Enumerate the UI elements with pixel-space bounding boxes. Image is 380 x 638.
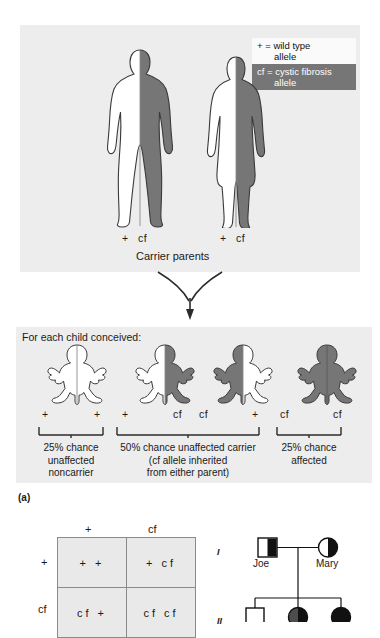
legend-wild-text: = wild type xyxy=(265,40,310,51)
pedigree-symbol-child-3 xyxy=(332,608,351,623)
child-2-allele-right: cf xyxy=(173,408,182,420)
father-allele-left: + xyxy=(122,232,129,244)
outcome-2-line3: from either parent) xyxy=(108,467,268,480)
inheritance-arrow-icon xyxy=(150,268,230,327)
legend-cf-text: = cystic fibrosis xyxy=(267,66,332,77)
punnett-row-header-1: + xyxy=(41,556,47,568)
punnett-col-header-2: cf xyxy=(148,523,157,535)
outcome-1-line3: noncarrier xyxy=(21,467,121,480)
bracket-noncarrier xyxy=(38,424,104,442)
punnett-cell-0-1: + cf xyxy=(127,538,196,588)
father-allele-right: cf xyxy=(138,232,147,244)
pedigree-chart: I II Joe Mary xyxy=(215,520,380,622)
mother-silhouette xyxy=(205,55,267,228)
child-3-allele-right: + xyxy=(252,408,259,420)
table-row: cf + cf cf xyxy=(58,588,196,638)
outcome-caption-affected: 25% chance affected xyxy=(259,442,359,467)
legend-wild-symbol: + xyxy=(257,40,263,51)
legend-row-cf: cf = cystic fibrosis allele xyxy=(252,64,356,90)
pedigree-name-joe: Joe xyxy=(253,558,269,569)
figure-label-a: (a) xyxy=(18,492,30,503)
mother-allele-right: cf xyxy=(236,232,245,244)
pedigree-svg xyxy=(215,520,380,622)
outcome-caption-carrier: 50% chance unaffected carrier (cf allele… xyxy=(108,442,268,480)
punnett-square: + + + cf cf + cf cf xyxy=(57,537,196,638)
child-3-allele-left: cf xyxy=(199,408,208,420)
pedigree-generation-label-2: II xyxy=(217,616,222,626)
bracket-carrier xyxy=(116,424,260,442)
child-silhouette-1 xyxy=(46,344,108,406)
child-1-allele-left: + xyxy=(42,408,49,420)
pedigree-symbol-joe xyxy=(258,538,277,557)
outcome-1-line1: 25% chance xyxy=(21,442,121,455)
pedigree-generation-label-1: I xyxy=(217,547,220,557)
legend-wild-text-cont: allele xyxy=(257,51,352,62)
carrier-parents-caption: Carrier parents xyxy=(136,250,209,262)
child-silhouette-3 xyxy=(212,344,274,406)
outcome-3-line2: affected xyxy=(259,455,359,468)
allele-legend: + = wild type allele cf = cystic fibrosi… xyxy=(252,38,356,90)
outcome-3-line1: 25% chance xyxy=(259,442,359,455)
table-row: + + + cf xyxy=(58,538,196,588)
punnett-col-header-1: + xyxy=(85,523,91,535)
mother-allele-left: + xyxy=(220,232,227,244)
child-silhouette-2 xyxy=(134,344,196,406)
child-1-allele-right: + xyxy=(94,408,101,420)
outcome-2-line2: (cf allele inherited xyxy=(108,455,268,468)
child-silhouette-4 xyxy=(296,344,358,406)
bracket-affected xyxy=(276,424,342,442)
punnett-row-header-2: cf xyxy=(38,603,47,615)
child-4-allele-left: cf xyxy=(280,408,289,420)
outcome-1-line2: unaffected xyxy=(21,455,121,468)
for-each-child-heading: For each child conceived: xyxy=(22,331,141,343)
punnett-cell-0-0: + + xyxy=(58,538,127,588)
pedigree-symbol-child-1 xyxy=(246,608,264,622)
outcome-caption-noncarrier: 25% chance unaffected noncarrier xyxy=(21,442,121,480)
father-silhouette xyxy=(105,48,175,228)
punnett-cell-1-1: cf cf xyxy=(127,588,196,638)
pedigree-symbol-child-2 xyxy=(289,608,308,623)
child-4-allele-right: cf xyxy=(333,408,342,420)
pedigree-symbol-mary xyxy=(319,538,338,557)
punnett-table: + + + cf cf + cf cf xyxy=(57,537,196,638)
child-2-allele-left: + xyxy=(122,408,129,420)
outcome-2-line1: 50% chance unaffected carrier xyxy=(108,442,268,455)
legend-cf-text-cont: allele xyxy=(257,77,352,88)
legend-row-wild-type: + = wild type allele xyxy=(252,38,356,64)
punnett-cell-1-0: cf + xyxy=(58,588,127,638)
pedigree-name-mary: Mary xyxy=(316,558,338,569)
